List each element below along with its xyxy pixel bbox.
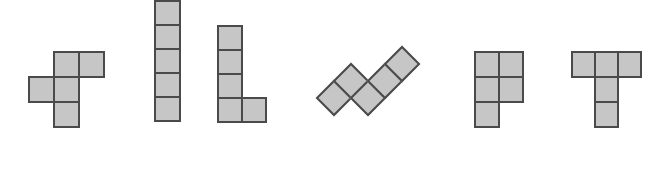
t-pentomino-square bbox=[594, 101, 619, 128]
t-pentomino bbox=[0, 0, 645, 173]
t-pentomino-square bbox=[594, 76, 619, 103]
t-pentomino-square bbox=[617, 51, 642, 78]
t-pentomino-square bbox=[594, 51, 619, 78]
pentomino-figure bbox=[0, 0, 645, 173]
t-pentomino-square bbox=[571, 51, 596, 78]
